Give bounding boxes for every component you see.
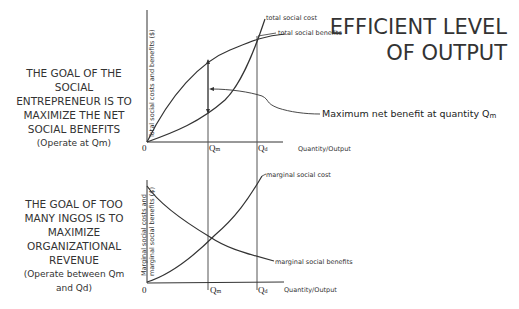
arrow-head-down-icon xyxy=(206,109,210,114)
bottom-y-axis-label-2: marginal social benefits ($) xyxy=(148,187,156,276)
bottom-chart xyxy=(147,174,284,283)
label-total-social-cost: total social cost xyxy=(266,14,317,22)
bottom-y-axis-label-1: Marginal social costs and xyxy=(140,194,148,276)
top-y-axis-label: Total social costs and benefits ($) xyxy=(148,29,156,139)
bottom-origin-label: 0 xyxy=(142,285,147,295)
arrow-head-left-icon xyxy=(209,87,214,91)
top-chart xyxy=(147,10,320,290)
bottom-qd-tick: Qd xyxy=(258,285,268,295)
label-marginal-social-benefits: marginal social benefits xyxy=(275,258,353,266)
label-max-net-benefit: Maximum net benefit at quantity Qm xyxy=(322,108,497,120)
top-origin-label: 0 xyxy=(142,143,147,153)
top-qd-tick: Qd xyxy=(258,143,268,153)
bottom-x-axis-label: Quantity/Output xyxy=(284,286,337,294)
total-social-benefits-curve xyxy=(147,34,285,142)
marginal-social-benefits-curve xyxy=(147,186,274,261)
label-marginal-social-cost: marginal social cost xyxy=(266,171,331,179)
efficiency-diagram: total social cost total social benefits … xyxy=(0,0,519,309)
marginal-social-cost-curve xyxy=(147,176,262,282)
annotation-leader-line xyxy=(211,89,320,114)
top-qm-tick: Qm xyxy=(209,143,221,153)
bottom-qm-tick: Qm xyxy=(210,285,222,295)
total-social-cost-curve xyxy=(147,19,265,142)
bottom-x-axis xyxy=(147,282,284,283)
label-total-social-benefits: total social benefits xyxy=(278,29,342,37)
top-x-axis-label: Quantity/Output xyxy=(298,145,351,153)
